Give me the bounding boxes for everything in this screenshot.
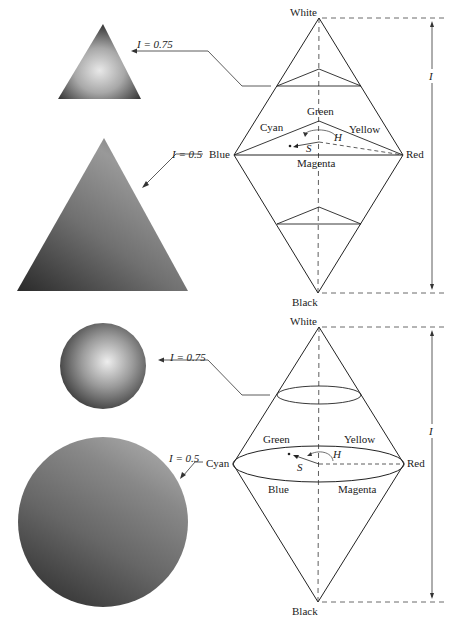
hsi-color-model-figure: I = 0.75 I = 0.5 White Black Blue Red [0,0,459,625]
vertex-red-label: Red [406,148,424,160]
hue-angle-label: H [333,131,343,143]
vertex-cyan-label: Cyan [206,457,230,469]
callout-i075-label: I = 0.75 [169,351,206,363]
vertex-black-label: Black [292,605,318,617]
callout-i075-label: I = 0.75 [136,38,173,50]
vertex-blue-label: Blue [209,148,230,160]
circle-slice-i075 [60,323,146,409]
hue-angle-label: H [332,448,342,460]
hue-yellow-label: Yellow [344,433,375,445]
saturation-label: S [306,142,312,154]
hue-cyan-label: Cyan [260,121,284,133]
saturation-label: S [297,461,303,473]
hue-blue-label: Blue [268,483,289,495]
vertex-black-label: Black [292,296,318,308]
hue-magenta-label: Magenta [297,157,336,169]
triangle-slice-i075 [58,24,141,99]
vertex-white-label: White [290,6,317,18]
hue-yellow-label: Yellow [349,123,380,135]
circle-slice-i05 [18,437,188,607]
hue-magenta-label: Magenta [338,483,377,495]
vertex-white-label: White [290,315,317,327]
hue-green-label: Green [263,433,290,445]
triangle-slice-i05 [17,138,188,291]
hue-green-label: Green [307,105,334,117]
vertex-red-label: Red [407,457,425,469]
bottom-model: I = 0.75 I = 0.5 White Black Cyan Red Gr… [18,315,448,617]
top-model: I = 0.75 I = 0.5 White Black Blue Red [17,6,448,308]
